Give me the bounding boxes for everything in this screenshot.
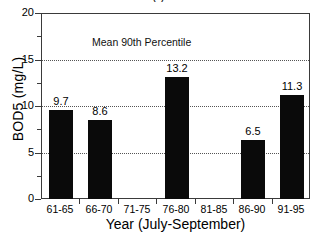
bar-76-80: [165, 77, 189, 199]
bar-86-90: [241, 140, 265, 199]
y-tick-label-15: 15: [14, 53, 34, 65]
y-tick-label-20: 20: [14, 6, 34, 18]
x-category-label-86-90: 86-90: [230, 203, 274, 215]
x-axis-title: Year (July-September): [41, 216, 310, 232]
bar-61-65: [49, 110, 73, 199]
plot-area: 9.78.613.26.511.3 Mean 90th Percentile: [41, 13, 310, 199]
bar-value-66-70: 8.6: [78, 105, 122, 117]
bar-value-61-65: 9.7: [39, 95, 83, 107]
bar-value-86-90: 6.5: [231, 125, 275, 137]
plot-annotation: Mean 90th Percentile: [92, 36, 191, 48]
bar-value-91-95: 11.3: [270, 80, 314, 92]
chart-title-remnant: ( ): [0, 0, 317, 2]
y-tick-major-0: [35, 199, 41, 200]
x-category-label-61-65: 61-65: [38, 203, 82, 215]
y-tick-label-10: 10: [14, 99, 34, 111]
y-tick-label-5: 5: [14, 146, 34, 158]
gridline-15: [42, 60, 309, 61]
x-category-label-91-95: 91-95: [269, 203, 313, 215]
y-tick-label-0: 0: [14, 192, 34, 204]
bar-value-76-80: 13.2: [155, 62, 199, 74]
x-category-label-71-75: 71-75: [115, 203, 159, 215]
bar-66-70: [88, 120, 112, 199]
bar-91-95: [280, 95, 304, 199]
